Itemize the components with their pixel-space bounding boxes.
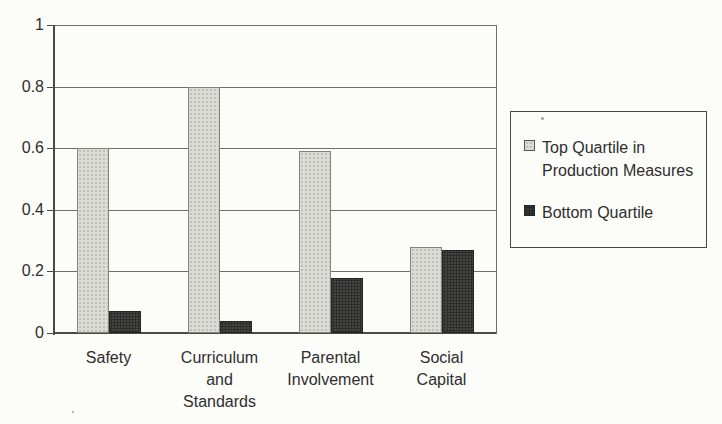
category-label-line: Capital [417, 369, 467, 391]
plot-right-border [496, 25, 497, 334]
legend-label: Bottom Quartile [542, 201, 653, 224]
bar-social-capital-top-quartile [410, 247, 442, 333]
y-tick-label: 1 [0, 15, 44, 35]
y-tick-label: 0.8 [0, 77, 44, 97]
category-label-social-capital: SocialCapital [417, 347, 467, 391]
y-tick-label: 0 [0, 323, 44, 343]
bar-social-capital-bottom-quartile [442, 250, 474, 333]
legend-swatch-icon [524, 140, 535, 151]
y-tick-label: 0.2 [0, 261, 44, 281]
legend-entry-top-quartile: Top Quartile inProduction Measures [524, 136, 693, 182]
bar-safety-top-quartile [77, 148, 109, 333]
bar-safety-bottom-quartile [109, 311, 141, 333]
y-tick-label: 0.6 [0, 138, 44, 158]
bar-chart: 00.20.40.60.81 SafetyCurriculumandStanda… [0, 0, 722, 424]
gridline [53, 148, 497, 149]
y-axis-line [53, 25, 55, 335]
legend-label-line: Production Measures [542, 159, 693, 182]
legend-label: Top Quartile inProduction Measures [542, 136, 693, 182]
legend-entry-bottom-quartile: Bottom Quartile [524, 201, 653, 224]
category-label-line: Involvement [287, 369, 373, 391]
bar-curriculum-and-standards-bottom-quartile [220, 321, 252, 333]
bar-parental-involvement-bottom-quartile [331, 278, 363, 333]
category-label-line: Safety [86, 347, 131, 369]
legend-swatch-icon [524, 205, 535, 216]
category-label-curriculum-and-standards: CurriculumandStandards [181, 347, 258, 413]
gridline [53, 25, 497, 26]
plot-area [53, 25, 497, 333]
legend-box: Top Quartile inProduction MeasuresBottom… [510, 111, 707, 248]
gridline [53, 210, 497, 211]
scan-speck [541, 117, 544, 120]
legend-label-line: Top Quartile in [542, 136, 693, 159]
bar-curriculum-and-standards-top-quartile [188, 87, 220, 333]
bar-parental-involvement-top-quartile [299, 151, 331, 333]
category-label-safety: Safety [86, 347, 131, 369]
category-label-line: Parental [287, 347, 373, 369]
legend-label-line: Bottom Quartile [542, 201, 653, 224]
category-label-line: Curriculum [181, 347, 258, 369]
y-tick-label: 0.4 [0, 200, 44, 220]
category-label-parental-involvement: ParentalInvolvement [287, 347, 373, 391]
gridline [53, 87, 497, 88]
category-label-line: Standards [181, 391, 258, 413]
category-label-line: Social [417, 347, 467, 369]
category-label-line: and [181, 369, 258, 391]
scan-speck [72, 411, 74, 413]
